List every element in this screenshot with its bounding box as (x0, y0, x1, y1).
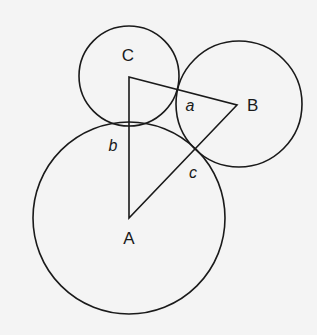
radius-label-a: a (186, 97, 195, 114)
radius-label-c: c (189, 164, 197, 181)
vertex-label-a: A (123, 229, 135, 248)
vertex-label-b: B (247, 96, 258, 115)
vertex-label-c: C (122, 46, 134, 65)
tangent-circles-diagram: C B A a b c (0, 0, 317, 335)
radius-label-b: b (109, 137, 118, 154)
triangle-abc (129, 77, 237, 218)
